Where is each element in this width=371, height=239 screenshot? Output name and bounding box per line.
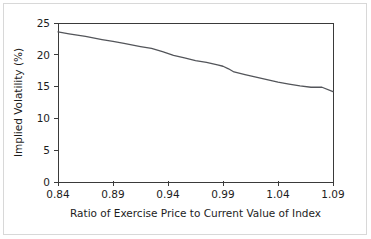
y-tick-label: 20 xyxy=(37,49,50,61)
plot-area-frame xyxy=(58,23,333,182)
x-tick-label: 0.89 xyxy=(101,188,124,200)
x-tick-label: 1.09 xyxy=(321,188,344,200)
x-tick-label: 0.94 xyxy=(156,188,180,200)
x-axis-tick-labels: 0.840.890.940.991.041.09 xyxy=(46,188,344,200)
chart-figure: 0510152025 0.840.890.940.991.041.09 Rati… xyxy=(0,0,371,239)
y-axis-title: Implied Volatility (%) xyxy=(12,48,24,157)
x-tick-label: 1.04 xyxy=(266,188,290,200)
y-tick-label: 0 xyxy=(43,176,50,188)
y-tick-label: 15 xyxy=(37,80,50,92)
implied-volatility-line xyxy=(58,32,333,92)
x-tick-label: 0.84 xyxy=(46,188,70,200)
y-tick-label: 25 xyxy=(37,17,50,29)
x-tick-label: 0.99 xyxy=(211,188,234,200)
y-tick-label: 10 xyxy=(37,112,50,124)
implied-volatility-chart: 0510152025 0.840.890.940.991.041.09 Rati… xyxy=(0,0,371,239)
x-axis-title: Ratio of Exercise Price to Current Value… xyxy=(70,207,321,219)
y-tick-label: 5 xyxy=(43,144,50,156)
y-axis-tick-labels: 0510152025 xyxy=(37,17,50,188)
